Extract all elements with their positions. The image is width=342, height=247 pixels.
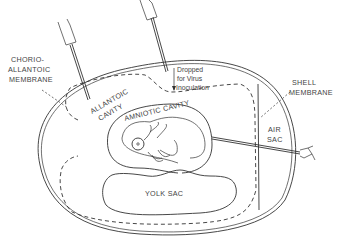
label-chorioallantoic-2: ALLANTOIC — [8, 65, 51, 74]
amniotic-needle — [212, 137, 315, 160]
egg-diagram: CHORIO- ALLANTOIC MEMBRANE ALLANTOIC CAV… — [0, 0, 342, 247]
label-dropped-1: Dropped — [177, 66, 203, 74]
label-shell-1: SHELL — [292, 78, 316, 87]
label-dropped-3: Inoculation — [176, 84, 209, 91]
label-yolk-sac: YOLK SAC — [145, 189, 183, 198]
label-air-1: AIR — [268, 125, 281, 134]
label-air-2: SAC — [267, 135, 283, 144]
label-shell-2: MEMBRANE — [289, 88, 333, 97]
label-amniotic-cavity: AMNIOTIC CAVITY — [123, 98, 190, 123]
chorioallantoic-needle — [140, 0, 168, 72]
embryo — [132, 122, 177, 161]
egg-shell — [38, 60, 296, 235]
label-dropped-2: for Virus — [177, 75, 203, 82]
label-chorioallantoic-1: CHORIO- — [11, 55, 45, 64]
label-chorioallantoic-3: MEMBRANE — [9, 75, 53, 84]
allantoic-needle — [58, 19, 90, 100]
